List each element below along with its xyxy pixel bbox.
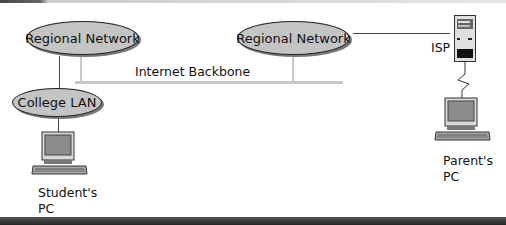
server-tower-icon [454,15,476,62]
top-border [0,0,506,3]
internet-backbone-bar [75,81,343,84]
student-computer-icon [31,131,88,178]
college-lan: College LAN [12,88,102,117]
regional-to-isp-line [353,33,450,34]
parent-computer-icon [434,97,491,144]
isp-label: ISP [431,40,450,56]
regional-network-right-label: Regional Network [236,31,351,46]
student-pc-label: Student's PC [38,185,97,217]
backbone-drop-left [80,56,82,83]
bottom-border [0,217,506,225]
modem-connection-icon [455,62,475,102]
regional-network-left-label: Regional Network [25,31,140,46]
college-lan-label: College LAN [18,95,97,110]
regional-network-left: Regional Network [26,21,139,55]
backbone-drop-right [292,56,294,83]
regional-to-college-line [59,56,60,92]
regional-network-right: Regional Network [237,21,350,55]
internet-backbone-label: Internet Backbone [135,64,250,80]
parent-pc-label: Parent's PC [443,153,493,185]
